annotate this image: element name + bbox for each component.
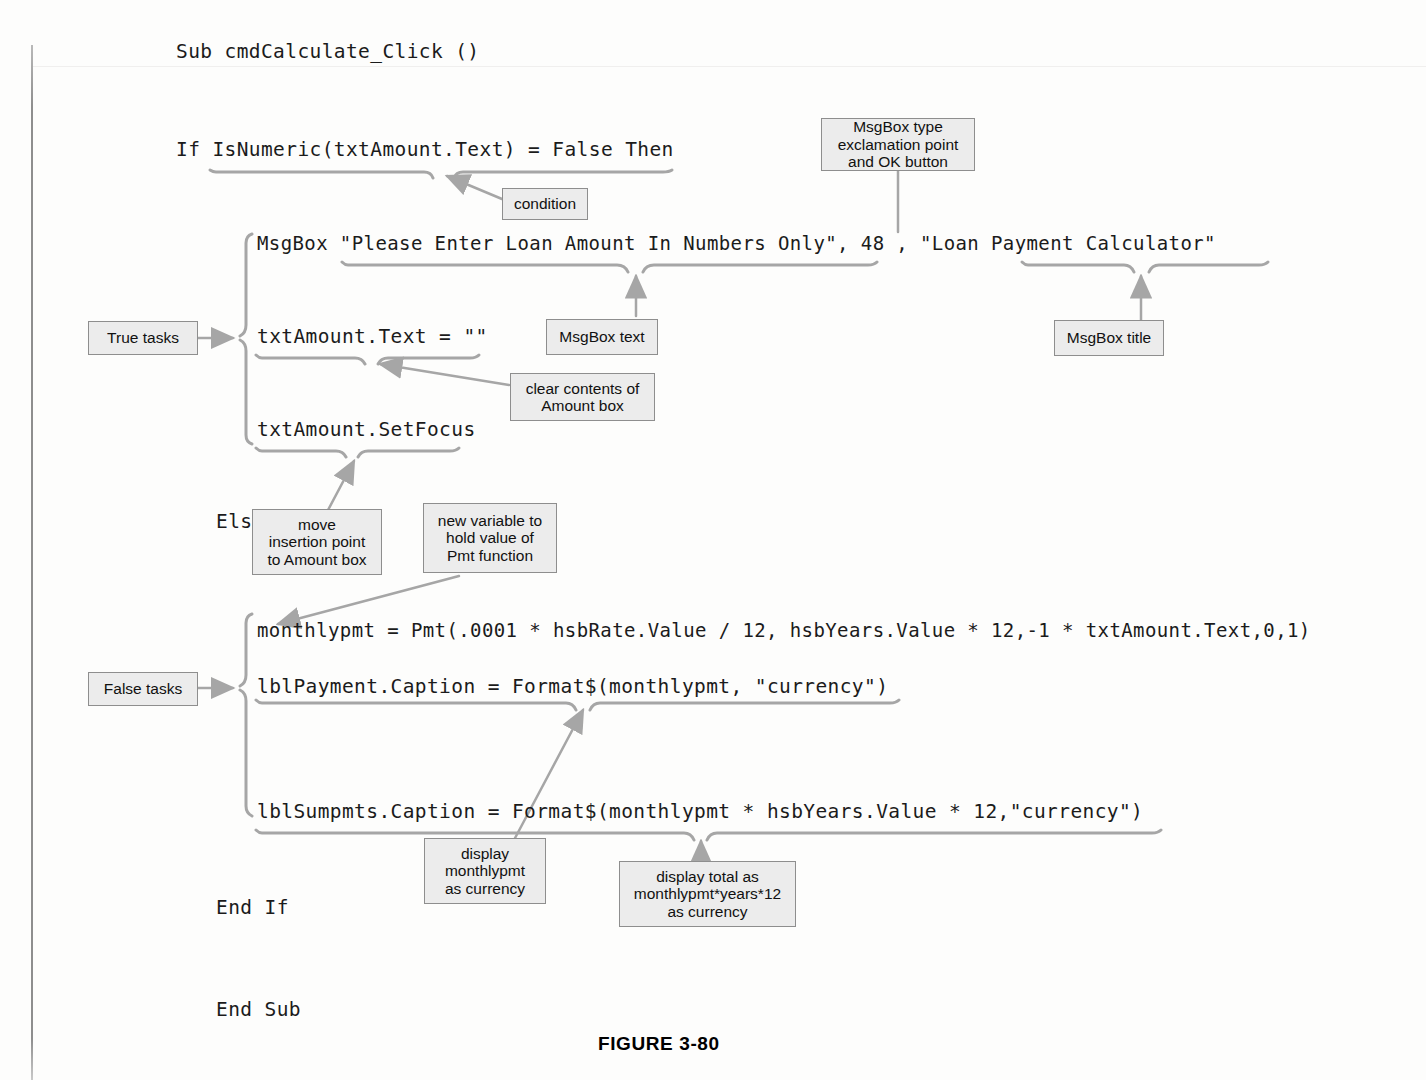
brace-msgbox-text (342, 262, 877, 272)
brace-payment-caption (256, 700, 899, 710)
code-line-if-condition: If IsNumeric(txtAmount.Text) = False The… (176, 140, 674, 160)
callout-condition: condition (502, 188, 588, 220)
callout-display-monthly: display monthlypmt as currency (424, 838, 546, 904)
leader-move-insertion (327, 461, 354, 512)
callout-true-tasks: True tasks (88, 321, 198, 355)
code-line-pmt-calculation: monthlypmt = Pmt(.0001 * hsbRate.Value /… (257, 621, 1311, 640)
leader-condition (447, 176, 502, 199)
leader-clear-contents (380, 364, 509, 385)
brace-setfocus (256, 448, 459, 457)
callout-display-total: display total as monthlypmt*years*12 as … (619, 861, 796, 927)
brace-true-tasks (240, 234, 252, 444)
brace-condition (210, 170, 672, 178)
callout-msgbox-title: MsgBox title (1054, 320, 1164, 356)
code-line-sumpmts-caption: lblSumpmts.Caption = Format$(monthlypmt … (257, 802, 1143, 822)
callout-clear-contents: clear contents of Amount box (510, 373, 655, 421)
page-edge-rule (31, 45, 33, 1080)
code-line-payment-caption: lblPayment.Caption = Format$(monthlypmt,… (257, 677, 888, 697)
code-line-end-if: End If (216, 898, 289, 918)
callout-msgbox-type: MsgBox type exclamation point and OK but… (821, 118, 975, 171)
brace-false-tasks (240, 614, 252, 816)
code-line-msgbox-call: MsgBox "Please Enter Loan Amount In Numb… (257, 234, 1216, 253)
callout-false-tasks: False tasks (88, 672, 198, 706)
callout-new-variable: new variable to hold value of Pmt functi… (423, 503, 557, 573)
code-line-sub-header: Sub cmdCalculate_Click () (176, 42, 480, 62)
brace-msgbox-title (1022, 262, 1268, 272)
code-line-clear-amount: txtAmount.Text = "" (257, 327, 488, 347)
callout-move-insertion: move insertion point to Amount box (252, 509, 382, 575)
page-top-hairline (33, 66, 1426, 67)
brace-clear-amount (256, 355, 479, 364)
figure-caption: FIGURE 3-80 (598, 1033, 720, 1055)
code-line-end-sub: End Sub (216, 1000, 301, 1020)
brace-sumpmts-caption (256, 830, 1161, 840)
callout-msgbox-text: MsgBox text (546, 319, 658, 355)
leader-new-variable (278, 576, 459, 624)
code-line-set-focus: txtAmount.SetFocus (257, 420, 476, 440)
